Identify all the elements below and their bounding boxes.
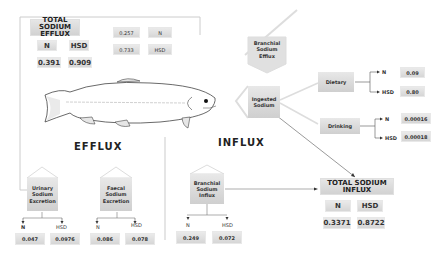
faecal-hsd-value: 0.078 xyxy=(125,233,155,245)
branchial-sodium-influx-box: Branchial Sodium Influx xyxy=(190,174,224,204)
dietary-n-label: N xyxy=(382,69,386,75)
efflux-hsd-label: HSD xyxy=(69,40,89,51)
dietary-hsd-value: 0.80 xyxy=(400,86,425,97)
faecal-n-value: 0.086 xyxy=(90,233,120,245)
efflux-heading: EFFLUX xyxy=(74,141,122,152)
label-line: Excretion xyxy=(103,198,130,204)
branchial-influx-n-label: N xyxy=(186,222,190,228)
drinking-n-label: N xyxy=(385,116,389,122)
total-sodium-influx-title: TOTAL SODIUM INFLUX xyxy=(320,178,394,195)
title-line: INFLUX xyxy=(343,187,372,194)
branchial-efflux-hsd-label: HSD xyxy=(148,44,172,55)
branchial-efflux-n-label: N xyxy=(148,27,172,38)
branchial-efflux-n-value: 0.257 xyxy=(113,27,140,38)
total-sodium-efflux-title: TOTAL SODIUM EFFLUX xyxy=(30,19,80,36)
label-line: Sodium xyxy=(253,102,274,108)
branchial-influx-hsd-label: HSD xyxy=(222,222,233,228)
ingested-sodium-box: Ingested Sodium xyxy=(248,86,280,118)
label-line: Excretion xyxy=(29,198,56,204)
faecal-sodium-excretion-box: Faecal Sodium Excretion xyxy=(100,178,132,211)
branchial-sodium-efflux-label: Branchial Sodium Efflux xyxy=(248,40,286,59)
influx-hsd-value: 0.8722 xyxy=(357,217,385,229)
efflux-hsd-value: 0.909 xyxy=(68,57,92,68)
dietary-box: Dietary xyxy=(318,72,354,92)
branchial-influx-n-value: 0.249 xyxy=(176,231,206,244)
branchial-efflux-hsd-value: 0.733 xyxy=(113,44,140,55)
dietary-hsd-label: HSD xyxy=(382,89,394,95)
drinking-hsd-value: 0.00018 xyxy=(401,131,431,142)
label-line: Efflux xyxy=(248,53,286,59)
urinary-hsd-value: 0.0976 xyxy=(50,233,80,245)
influx-n-label: N xyxy=(325,200,351,212)
faecal-n-label: N xyxy=(96,224,100,230)
drinking-hsd-label: HSD xyxy=(385,135,397,141)
influx-hsd-label: HSD xyxy=(357,200,383,212)
urinary-sodium-excretion-box: Urinary Sodium Excretion xyxy=(27,178,58,211)
faecal-hsd-label: HSD xyxy=(131,222,142,228)
label-line: Influx xyxy=(199,192,215,198)
influx-heading: INFLUX xyxy=(218,137,265,148)
urinary-n-value: 0.047 xyxy=(15,233,45,245)
influx-n-value: 0.3371 xyxy=(323,217,351,229)
drinking-box: Drinking xyxy=(320,118,360,134)
efflux-n-label: N xyxy=(37,40,57,51)
title-line: EFFLUX xyxy=(40,31,70,38)
efflux-n-value: 0.391 xyxy=(37,57,61,68)
dietary-n-value: 0.09 xyxy=(400,67,425,78)
title-line: TOTAL SODIUM xyxy=(31,17,79,31)
urinary-hsd-label: HSD xyxy=(56,224,67,230)
drinking-n-value: 0.00016 xyxy=(401,113,431,124)
urinary-n-label: N xyxy=(21,224,25,230)
branchial-influx-hsd-value: 0.072 xyxy=(212,231,242,244)
